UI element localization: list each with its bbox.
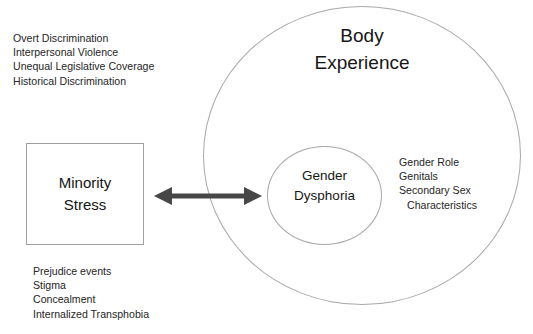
note-line: Secondary Sex xyxy=(399,183,477,197)
diagram-canvas: Body Experience Gender Dysphoria Minorit… xyxy=(0,0,533,334)
note-line: Historical Discrimination xyxy=(13,74,154,88)
note-line: Overt Discrimination xyxy=(13,31,154,45)
note-line: Internalized Transphobia xyxy=(33,307,149,321)
note-right: Gender Role Genitals Secondary Sex Chara… xyxy=(399,155,477,212)
note-line: Concealment xyxy=(33,292,149,306)
note-line: Interpersonal Violence xyxy=(13,45,154,59)
note-top-left: Overt Discrimination Interpersonal Viole… xyxy=(13,31,154,88)
note-line: Unequal Legislative Coverage xyxy=(13,59,154,73)
note-line: Characteristics xyxy=(399,198,477,212)
note-bottom-left: Prejudice events Stigma Concealment Inte… xyxy=(33,264,149,321)
inner-circle-label: Gender Dysphoria xyxy=(267,166,382,206)
outer-circle-label: Body Experience xyxy=(262,22,462,76)
note-line: Genitals xyxy=(399,169,477,183)
bidirectional-arrow-icon xyxy=(152,182,264,210)
note-line: Prejudice events xyxy=(33,264,149,278)
note-line: Stigma xyxy=(33,278,149,292)
note-line: Gender Role xyxy=(399,155,477,169)
minority-stress-label: Minority Stress xyxy=(26,172,144,216)
